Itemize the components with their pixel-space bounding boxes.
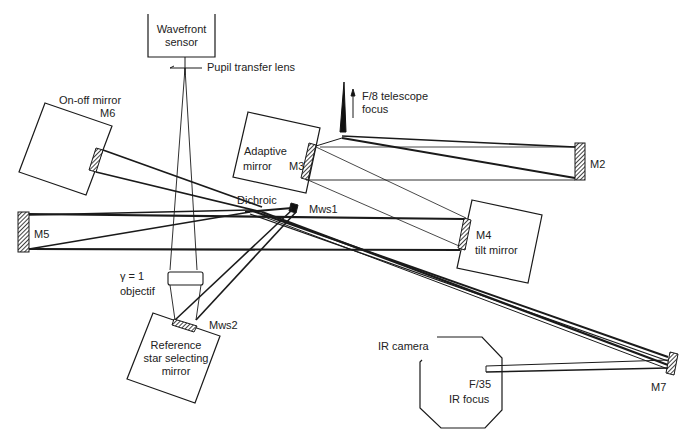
ir-focus-label: IR focus — [449, 393, 489, 406]
m2-mirror — [575, 143, 585, 180]
m4-label: M4 — [476, 229, 491, 242]
m3-label: M3 — [289, 160, 304, 173]
ir-camera-label: IR camera — [378, 340, 429, 353]
tilt-mirror-box — [457, 200, 542, 283]
reference-label-line2: star selecting — [133, 352, 219, 365]
m6-mirror — [89, 148, 103, 172]
tilt-mirror-label: tilt mirror — [475, 244, 518, 257]
reference-star-mirror-label: Reference star selecting mirror — [133, 339, 219, 378]
reference-label-line1: Reference — [133, 339, 219, 352]
optical-layout-diagram: Wavefront sensor Pupil transfer lens On-… — [0, 0, 691, 432]
f8-focus-label-line1: F/8 telescope — [362, 90, 428, 103]
m6-label: M6 — [100, 107, 115, 120]
mws2-mirror — [172, 319, 197, 332]
m2-label: M2 — [590, 158, 605, 171]
dichroic-label: Dichroic — [237, 194, 277, 207]
pupil-transfer-lens-label: Pupil transfer lens — [207, 61, 295, 74]
diagram-drawing — [0, 0, 691, 432]
adaptive-mirror-label-line2: mirror — [243, 160, 272, 173]
m7-mirror — [666, 352, 678, 375]
m5-label: M5 — [34, 228, 49, 241]
m5-mirror — [18, 212, 29, 252]
f35-label: F/35 — [469, 378, 491, 391]
m7-label: M7 — [651, 381, 666, 394]
objectif-lens — [168, 272, 203, 285]
wavefront-sensor-label: Wavefront sensor — [148, 23, 215, 49]
gamma-label: γ = 1 — [120, 270, 144, 283]
mws1-label: Mws1 — [309, 203, 338, 216]
mws2-label: Mws2 — [209, 319, 238, 332]
reference-label-line3: mirror — [133, 365, 219, 378]
f8-focus-label-line2: focus — [362, 103, 388, 116]
on-off-mirror-label: On-off mirror — [59, 94, 121, 107]
m4-mirror — [458, 218, 471, 250]
objectif-label: objectif — [120, 285, 155, 298]
wavefront-sensor-line2: sensor — [148, 36, 215, 49]
wavefront-sensor-line1: Wavefront — [148, 23, 215, 36]
adaptive-mirror-label-line1: Adaptive — [244, 145, 287, 158]
